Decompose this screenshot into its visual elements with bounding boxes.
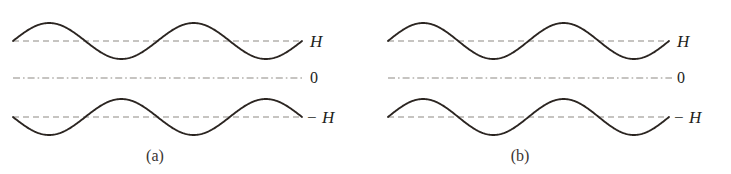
panel-b: H 0 − H (b) [366,0,731,174]
panel-b-h-label: H [677,33,689,50]
panel-b-caption: (b) [490,148,550,164]
panel-a-caption: (a) [125,148,185,164]
panel-b-minus-h-label: − H [673,109,702,126]
panel-a-minus-h-label: − H [306,109,335,126]
panel-a-zero-label: 0 [310,70,318,86]
panel-a-h-label: H [310,33,322,50]
panel-b-zero-label: 0 [677,70,685,86]
figure-container: H 0 − H (a) H 0 − H (b) [0,0,731,174]
panel-a: H 0 − H (a) [0,0,366,174]
